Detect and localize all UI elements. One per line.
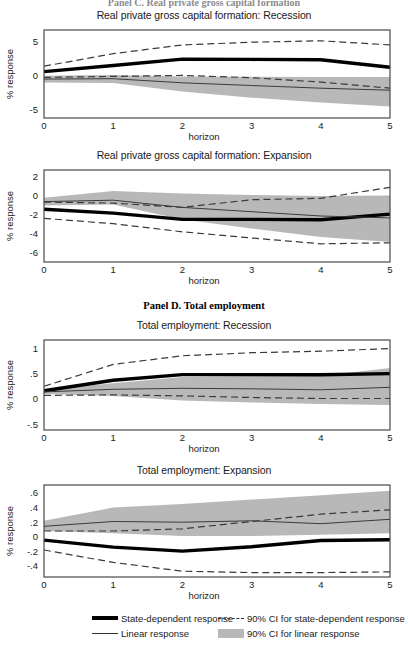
x-axis-label: horizon xyxy=(0,443,408,454)
x-tick-label: 1 xyxy=(111,120,116,131)
series-line xyxy=(44,540,390,551)
y-tick-label: 0 xyxy=(33,393,38,404)
legend-item-ci-linear: 90% CI for linear response xyxy=(218,627,359,639)
x-tick-label: 0 xyxy=(41,120,46,131)
plot-area xyxy=(0,318,408,456)
x-tick-label: 0 xyxy=(41,432,46,443)
y-axis-label: % response xyxy=(4,49,15,99)
x-tick-label: 4 xyxy=(318,579,323,590)
legend-item-linear-response: Linear response xyxy=(92,627,189,639)
x-tick-label: 0 xyxy=(41,579,46,590)
y-tick-label: 1 xyxy=(33,342,38,353)
chart-capital-expansion: Real private gross capital formation: Ex… xyxy=(0,148,408,288)
y-tick-label: -5 xyxy=(30,103,38,114)
figure-legend: State-dependent response Linear response… xyxy=(0,604,408,652)
plot-area xyxy=(0,8,408,144)
ci-linear-band xyxy=(44,75,390,107)
x-axis-label: horizon xyxy=(0,590,408,601)
y-tick-label: 0 xyxy=(33,189,38,200)
x-tick-label: 3 xyxy=(249,264,254,275)
chart-capital-recession: Real private gross capital formation: Re… xyxy=(0,8,408,144)
y-tick-label: -2 xyxy=(30,209,38,220)
x-tick-label: 2 xyxy=(180,432,185,443)
x-axis-label: horizon xyxy=(0,275,408,286)
legend-label-state-dependent-response: State-dependent response xyxy=(121,613,233,624)
y-tick-label: .4 xyxy=(30,501,38,512)
x-tick-label: 1 xyxy=(111,432,116,443)
x-tick-label: 5 xyxy=(387,432,392,443)
legend-label-ci-state-dependent: 90% CI for state-dependent response xyxy=(247,613,405,624)
plot-frame xyxy=(44,30,390,118)
x-tick-label: 3 xyxy=(249,579,254,590)
y-tick-label: -.5 xyxy=(27,418,38,429)
y-tick-label: .6 xyxy=(30,487,38,498)
x-tick-label: 5 xyxy=(387,579,392,590)
y-tick-label: 5 xyxy=(33,35,38,46)
legend-item-state-dependent-response: State-dependent response xyxy=(92,612,233,624)
legend-swatch-dashed-line-icon xyxy=(218,618,244,619)
chart-employment-recession: Total employment: Recession1.50-.5% resp… xyxy=(0,318,408,456)
plot-area xyxy=(0,148,408,288)
chart-employment-expansion: Total employment: Expansion.6.4.20-.2-.4… xyxy=(0,463,408,603)
legend-item-ci-state-dependent: 90% CI for state-dependent response xyxy=(218,612,405,624)
y-axis-label: % response xyxy=(4,506,15,556)
y-tick-label: 0 xyxy=(33,69,38,80)
y-tick-label: -.4 xyxy=(27,560,38,571)
legend-swatch-thick-line-icon xyxy=(92,616,118,620)
panel-d-header: Panel D. Total employment xyxy=(0,300,408,311)
x-tick-label: 1 xyxy=(111,264,116,275)
y-tick-label: -6 xyxy=(30,247,38,258)
y-axis-label: % response xyxy=(4,191,15,241)
y-tick-label: 0 xyxy=(33,531,38,542)
y-tick-label: .2 xyxy=(30,516,38,527)
legend-label-linear-response: Linear response xyxy=(121,628,189,639)
y-tick-label: -.2 xyxy=(27,545,38,556)
x-tick-label: 4 xyxy=(318,264,323,275)
x-axis-label: horizon xyxy=(0,131,408,142)
y-tick-label: -4 xyxy=(30,228,38,239)
x-tick-label: 4 xyxy=(318,432,323,443)
legend-swatch-band-icon xyxy=(218,629,244,638)
y-tick-label: 2 xyxy=(33,170,38,181)
x-tick-label: 5 xyxy=(387,264,392,275)
x-tick-label: 0 xyxy=(41,264,46,275)
x-tick-label: 2 xyxy=(180,120,185,131)
x-tick-label: 2 xyxy=(180,264,185,275)
series-line xyxy=(44,59,390,72)
y-axis-label: % response xyxy=(4,360,15,410)
x-tick-label: 3 xyxy=(249,432,254,443)
ci-linear-band xyxy=(44,491,390,536)
x-tick-label: 2 xyxy=(180,579,185,590)
legend-swatch-thin-line-icon xyxy=(92,633,118,634)
x-tick-label: 3 xyxy=(249,120,254,131)
x-tick-label: 4 xyxy=(318,120,323,131)
panel-c-header: Panel C. Real private gross capital form… xyxy=(0,0,408,8)
y-tick-label: .5 xyxy=(30,368,38,379)
legend-label-ci-linear: 90% CI for linear response xyxy=(247,628,359,639)
x-tick-label: 1 xyxy=(111,579,116,590)
x-tick-label: 5 xyxy=(387,120,392,131)
series-line xyxy=(44,550,390,573)
plot-area xyxy=(0,463,408,603)
